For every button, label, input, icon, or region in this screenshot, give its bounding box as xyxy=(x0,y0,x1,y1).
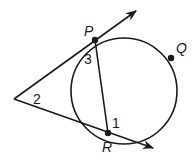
label-q: Q xyxy=(176,40,187,56)
label-p: P xyxy=(84,23,94,39)
angle-1-label: 1 xyxy=(112,115,120,131)
geometry-diagram: P Q R 1 2 3 xyxy=(0,0,196,162)
point-r-dot xyxy=(105,130,111,136)
point-q-dot xyxy=(168,55,174,61)
angle-3-label: 3 xyxy=(84,51,92,67)
chord-pr xyxy=(95,40,108,133)
label-r: R xyxy=(102,139,112,155)
angle-2-label: 2 xyxy=(33,91,41,107)
tangent-ray-p xyxy=(14,11,136,99)
